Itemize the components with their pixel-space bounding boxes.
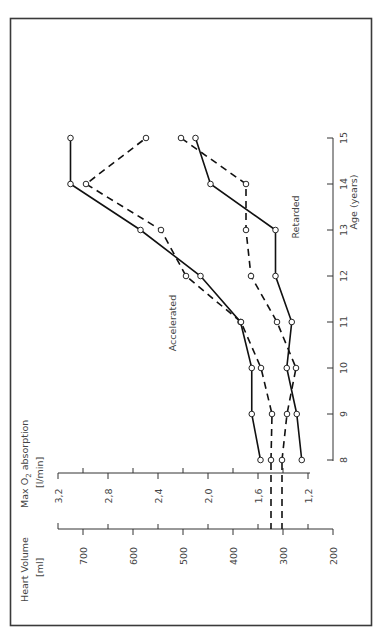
data-point <box>208 181 214 187</box>
retarded-label: Retarded <box>290 195 301 238</box>
series-accelerated-max-o2 <box>68 135 264 463</box>
data-point <box>138 227 144 233</box>
data-point <box>238 319 244 325</box>
data-point <box>183 273 189 279</box>
age-tick-label: 8 <box>338 457 349 463</box>
age-axis-title: Age (years) <box>348 175 359 230</box>
age-tick-label: 15 <box>338 132 349 144</box>
data-point <box>294 411 300 417</box>
data-point <box>143 135 149 141</box>
data-point <box>68 135 74 141</box>
heart-volume-axis-unit: [ml] <box>34 558 45 577</box>
o2-tick-label: 2,8 <box>103 488 114 503</box>
data-point <box>284 365 290 371</box>
hv-tick-label: 500 <box>178 547 189 565</box>
series-layer <box>68 135 305 463</box>
data-point <box>273 227 279 233</box>
data-point <box>249 365 255 371</box>
age-axis: 89101112131415 Age (years) <box>327 132 359 463</box>
data-point <box>299 457 305 463</box>
chart-frame <box>11 19 372 626</box>
o2-tick-label: 1,6 <box>253 488 264 503</box>
data-point <box>284 411 290 417</box>
data-point <box>289 319 295 325</box>
age-tick-label: 9 <box>338 411 349 417</box>
series-retarded-heart-volume <box>178 135 299 463</box>
data-point <box>158 227 164 233</box>
data-point <box>243 227 249 233</box>
o2-tick-label: 2,4 <box>153 488 164 503</box>
data-point <box>248 273 254 279</box>
data-point <box>274 319 280 325</box>
data-point <box>269 411 275 417</box>
data-point <box>279 457 285 463</box>
hv-tick-label: 700 <box>78 547 89 565</box>
data-point <box>83 181 89 187</box>
hv-tick-label: 200 <box>328 547 339 565</box>
data-point <box>243 181 249 187</box>
chart: 200300400500600700 Heart Volume [ml] 1,2… <box>0 0 379 633</box>
data-point <box>198 273 204 279</box>
heart-volume-axis-title: Heart Volume <box>19 537 30 602</box>
hv-tick-label: 300 <box>278 547 289 565</box>
accelerated-label: Accelerated <box>167 295 178 351</box>
max-o2-axis-title: Max O2 absorption <box>19 420 33 508</box>
data-point <box>68 181 74 187</box>
age-tick-label: 12 <box>338 270 349 282</box>
o2-tick-label: 2,0 <box>203 488 214 503</box>
o2-tick-label: 1,2 <box>303 488 314 503</box>
age-tick-label: 11 <box>338 316 349 328</box>
max-o2-axis-unit: [l/min] <box>34 457 45 488</box>
age-tick-label: 10 <box>338 362 349 374</box>
hv-tick-label: 600 <box>128 547 139 565</box>
heart-volume-axis: 200300400500600700 Heart Volume [ml] <box>19 523 339 602</box>
data-point <box>249 411 255 417</box>
data-point <box>273 273 279 279</box>
data-point <box>178 135 184 141</box>
data-point <box>268 457 274 463</box>
data-point <box>258 365 264 371</box>
max-o2-axis: 1,21,62,02,42,83,2 Max O2 absorption [l/… <box>19 420 314 508</box>
data-point <box>258 457 264 463</box>
hv-tick-label: 400 <box>228 547 239 565</box>
data-point <box>293 365 299 371</box>
data-point <box>193 135 199 141</box>
o2-tick-label: 3,2 <box>53 488 64 503</box>
